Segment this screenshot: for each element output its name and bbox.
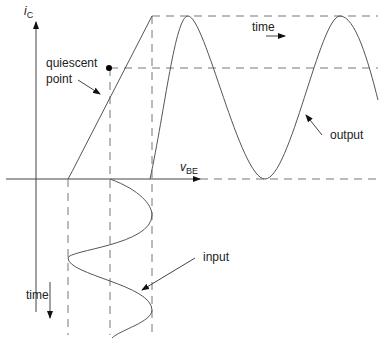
quiescent-arrow bbox=[78, 80, 100, 94]
input-label: input bbox=[203, 250, 229, 264]
point-label: point bbox=[46, 72, 72, 86]
output-label: output bbox=[330, 128, 363, 142]
input-waveform bbox=[68, 179, 152, 338]
vbe-axis-label: vBE bbox=[180, 160, 198, 178]
input-arrow bbox=[142, 258, 195, 290]
output-arrow bbox=[306, 115, 322, 135]
dashed-guides bbox=[68, 16, 378, 335]
ic-axis-label: iC bbox=[24, 4, 33, 22]
output-waveform bbox=[150, 16, 378, 179]
quiescent-point-dot bbox=[106, 65, 112, 71]
time-label-top: time bbox=[252, 20, 275, 34]
time-label-left: time bbox=[26, 288, 49, 302]
quiescent-label: quiescent bbox=[46, 56, 97, 70]
